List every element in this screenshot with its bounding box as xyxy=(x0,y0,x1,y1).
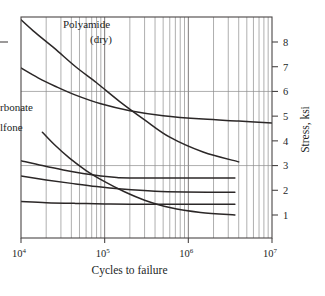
x-tick-exponent: 5 xyxy=(106,247,110,255)
x-tick-exponent: 6 xyxy=(190,247,194,255)
annotation-polycarbonate: rbonate xyxy=(0,101,33,113)
x-axis-title: Cycles to failure xyxy=(91,264,167,277)
x-tick-exponent: 4 xyxy=(23,247,27,255)
annotation-polyamide-dry: (dry) xyxy=(90,33,112,46)
y-tick-label: 8 xyxy=(283,37,288,48)
annotation-polysulfone: lfone xyxy=(0,121,23,133)
y-axis-title: Stress, ksi xyxy=(299,106,312,153)
y-tick-label: 3 xyxy=(283,160,288,171)
x-tick-exponent: 7 xyxy=(274,247,278,255)
y-tick-label: 4 xyxy=(283,136,289,147)
fatigue-sn-chart: 10410510610787654321 Cycles to failure S… xyxy=(0,0,325,296)
y-tick-label: 1 xyxy=(283,210,288,221)
y-tick-label: 7 xyxy=(283,62,288,73)
y-tick-label: 2 xyxy=(283,185,288,196)
y-tick-label: 5 xyxy=(283,111,288,122)
annotation-polyamide: Polyamide xyxy=(63,18,110,30)
y-tick-label: 6 xyxy=(283,86,288,97)
